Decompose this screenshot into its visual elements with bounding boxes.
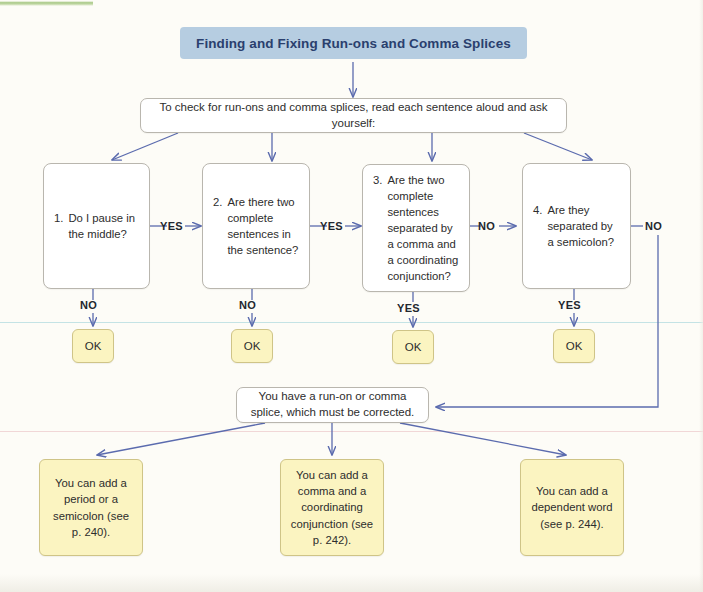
ok-box-1: OK [72,329,114,363]
ok-box-4: OK [553,329,595,363]
edge-label-q2-to-q3: YES [320,220,343,232]
ok-box-1-label: OK [85,338,102,355]
question-2-text: Are there two complete sentences in the … [227,194,301,258]
ok-box-3-label: OK [405,339,422,356]
question-box-1[interactable]: 1. Do I pause in the middle? [43,163,150,289]
ok-box-4-label: OK [566,338,583,355]
question-4-text: Are they separated by a semicolon? [547,202,622,250]
connector-result-to-solution3 [400,423,566,455]
solution-2-text: You can add a comma and a coordinating c… [289,467,375,549]
instruction-text: To check for run-ons and comma splices, … [153,100,554,131]
result-box: You have a run-on or comma splice, which… [236,387,429,423]
question-1-text: Do I pause in the middle? [68,210,141,242]
result-text: You have a run-on or comma splice, which… [247,389,418,420]
question-3-number: 3. [373,172,382,284]
edge-label-q2-down: NO [239,299,256,311]
ok-box-2-label: OK [244,338,261,355]
edge-label-q1-to-q2: YES [160,220,183,232]
scan-artifact-right-edge [699,0,703,592]
title-banner-text: Finding and Fixing Run-ons and Comma Spl… [196,36,511,51]
solution-box-3: You can add a dependent word (see p. 244… [520,459,624,556]
edge-label-q1-down: NO [80,299,97,311]
solution-box-1: You can add a period or a semicolon (see… [39,459,143,556]
edge-label-q4-to-result: NO [645,220,662,232]
question-box-4[interactable]: 4. Are they separated by a semicolon? [522,163,631,289]
question-2-number: 2. [213,194,222,258]
edge-label-q4-down: YES [558,299,581,311]
solution-1-text: You can add a period or a semicolon (see… [48,475,134,541]
ok-box-3: OK [392,330,434,364]
question-box-3[interactable]: 3. Are the two complete sentences separa… [362,164,470,292]
question-1-number: 1. [54,210,63,242]
solution-3-text: You can add a dependent word (see p. 244… [529,483,615,532]
ok-box-2: OK [231,329,273,363]
connector-instruction-to-q1 [112,133,178,160]
instruction-box: To check for run-ons and comma splices, … [140,98,567,133]
solution-box-2: You can add a comma and a coordinating c… [280,459,384,556]
scan-artifact-cyan-line [0,322,703,323]
question-box-2[interactable]: 2. Are there two complete sentences in t… [202,163,310,289]
scan-artifact-green-bar [0,1,93,6]
scan-artifact-pink-line [0,431,703,432]
edge-label-q3-to-q4: NO [478,220,495,232]
connector-result-to-solution1 [97,423,265,455]
connector-instruction-to-q4 [524,133,592,160]
question-3-text: Are the two complete sentences separated… [387,172,461,284]
question-4-number: 4. [533,202,542,250]
title-banner: Finding and Fixing Run-ons and Comma Spl… [180,27,527,59]
edge-label-q3-down: YES [397,302,420,314]
scan-artifact-bottom-edge [0,574,703,592]
